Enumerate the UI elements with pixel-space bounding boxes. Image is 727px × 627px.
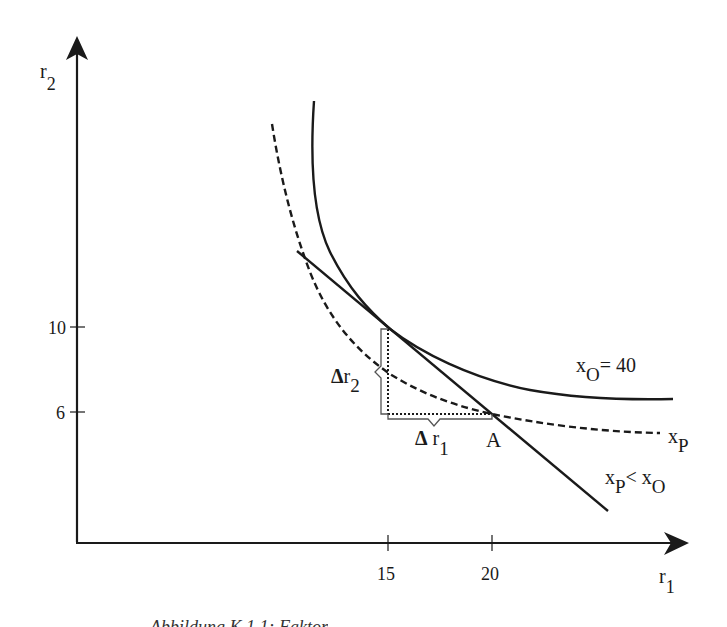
inequality-label: xP< xO xyxy=(605,466,666,497)
y-tick-label-6: 6 xyxy=(56,403,65,423)
delta-r1-label: Δ r1 xyxy=(415,427,449,459)
point-a-label: A xyxy=(486,428,502,452)
x-tick-label-15: 15 xyxy=(377,564,395,584)
x-tick-label-20: 20 xyxy=(481,564,499,584)
figure-caption: Abbildung K.1.1: Faktor xyxy=(150,612,328,627)
x-axis-label: r1 xyxy=(659,565,675,597)
y-tick-label-10: 10 xyxy=(48,318,66,338)
y-axis-label: r2 xyxy=(40,60,56,94)
axes xyxy=(66,36,689,555)
delta-r2-label: Δr2 xyxy=(331,365,360,396)
isoquant-xo-label: xO= 40 xyxy=(576,354,636,385)
isoquant-diagram: r2 r1 10 6 15 20 Δr2 Δ r1 A xO= 40 xP xP… xyxy=(0,0,727,627)
delta-r1-brace-icon xyxy=(388,414,492,426)
isoquant-xp-label: xP xyxy=(668,425,689,456)
